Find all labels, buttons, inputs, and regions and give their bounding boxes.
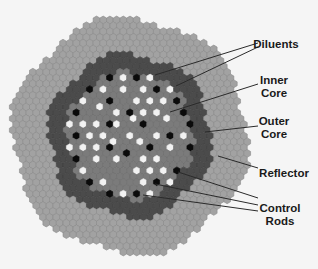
reflector-cell <box>110 242 117 250</box>
hex-lattice <box>9 16 250 256</box>
reflector-cell <box>160 248 167 256</box>
reflector-cell <box>86 237 93 245</box>
reflector-cell <box>153 248 160 256</box>
reflector-cell <box>140 248 147 256</box>
label-outer-core: Outer Core <box>259 115 290 141</box>
label-reflector: Reflector <box>259 167 309 180</box>
label-line: Core <box>260 87 288 100</box>
reflector-cell <box>224 196 231 204</box>
label-line: Reflector <box>259 167 309 180</box>
label-diluents: Diluents <box>253 38 298 51</box>
reflector-cell <box>170 242 177 250</box>
label-line: Core <box>259 128 290 141</box>
label-line: Diluents <box>253 38 298 51</box>
reflector-cell <box>103 242 110 250</box>
reflector-cell <box>133 248 140 256</box>
reflector-cell <box>80 237 87 245</box>
label-line: Rods <box>260 215 301 228</box>
label-line: Inner <box>260 74 288 87</box>
reflector-cell <box>93 237 100 245</box>
reflector-cell <box>63 231 70 239</box>
reflector-cell <box>127 248 134 256</box>
reflector-cell <box>147 248 154 256</box>
reflector-cell <box>70 231 77 239</box>
reflector-cell <box>180 237 187 245</box>
label-line: Control <box>260 202 301 215</box>
reflector-cell <box>120 248 127 256</box>
label-inner-core: Inner Core <box>260 74 288 100</box>
reflector-cell <box>53 225 60 233</box>
label-line: Outer <box>259 115 290 128</box>
label-control-rods: Control Rods <box>260 202 301 228</box>
reflector-cell <box>43 219 50 227</box>
reflector-cell <box>194 225 201 233</box>
reflector-cell <box>210 208 217 216</box>
reactor-core-diagram: Diluents Inner Core Outer Core Reflector… <box>0 0 318 269</box>
